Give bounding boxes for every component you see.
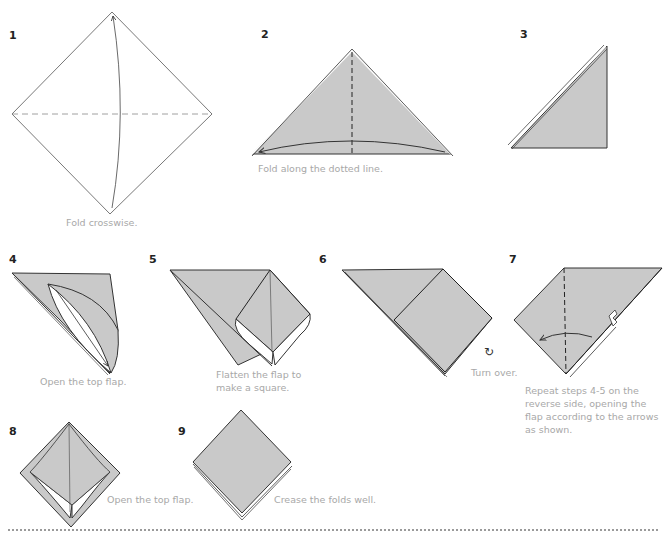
step-5-figure xyxy=(170,270,310,366)
step-3-number: 3 xyxy=(520,28,528,41)
step-6-caption: Turn over. xyxy=(471,366,518,379)
dotted-divider xyxy=(8,529,658,531)
step-8-caption: Open the top flap. xyxy=(107,493,193,506)
step-7-figure xyxy=(514,268,662,377)
step-9-caption: Crease the folds well. xyxy=(274,493,376,506)
step-9-number: 9 xyxy=(178,425,186,438)
step-5-caption: Flatten the flap to make a square. xyxy=(216,368,316,394)
step-3-figure xyxy=(508,45,607,149)
step-7-caption: Repeat steps 4-5 on the reverse side, op… xyxy=(525,384,660,436)
step-8-number: 8 xyxy=(9,425,17,438)
step-4-figure xyxy=(12,273,118,375)
step-4-number: 4 xyxy=(9,253,17,266)
step-2-caption: Fold along the dotted line. xyxy=(258,162,383,175)
step-1-figure xyxy=(12,12,212,214)
step-7-number: 7 xyxy=(509,253,517,266)
origami-diagram: ↻ xyxy=(0,0,666,544)
step-8-figure xyxy=(20,422,120,527)
step-2-number: 2 xyxy=(261,28,269,41)
step-4-caption: Open the top flap. xyxy=(40,375,126,388)
step-1-caption: Fold crosswise. xyxy=(66,216,137,229)
step-5-number: 5 xyxy=(149,253,157,266)
step-2-figure xyxy=(252,49,453,156)
step-6-figure: ↻ xyxy=(342,269,494,377)
step-6-number: 6 xyxy=(319,253,327,266)
step-1-number: 1 xyxy=(9,29,17,42)
turn-over-icon: ↻ xyxy=(484,345,494,359)
